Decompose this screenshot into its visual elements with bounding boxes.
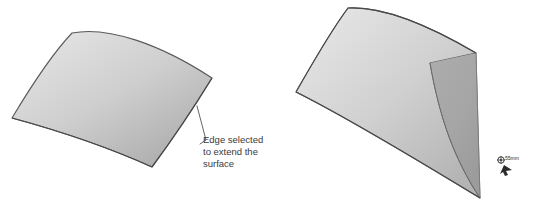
callout-line-3: surface <box>203 158 234 169</box>
extension-measurement-label: 55mm <box>505 155 519 161</box>
figure-canvas: Edge selected to extend the surface 55mm <box>0 0 547 208</box>
callout-line-2: to extend the <box>203 146 258 157</box>
callout-line-1: Edge selected <box>203 134 263 145</box>
